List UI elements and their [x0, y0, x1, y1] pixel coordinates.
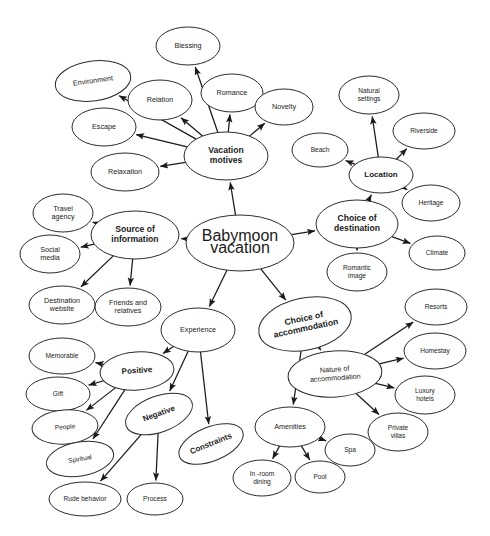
node-label-novelty: Novelty: [272, 102, 296, 111]
edge-positive-to-gift: [89, 381, 104, 385]
node-label-friends: Friends andrelatives: [109, 298, 147, 316]
edge-nature-to-homestay: [379, 358, 404, 364]
node-label-location: Location: [364, 170, 397, 179]
node-label-relation: Relation: [147, 95, 173, 104]
node-label-destination: Choice ofdestination: [334, 213, 380, 233]
node-label-heritage: Heritage: [419, 199, 444, 207]
node-accommodation[interactable]: Choice ofaccommodation: [254, 289, 357, 359]
node-socialmedia[interactable]: Socialmedia: [20, 235, 80, 273]
node-rudebehavior[interactable]: Rude behavior: [49, 482, 121, 516]
edge-location-to-natsettings: [372, 116, 378, 157]
node-label-root: Babymoonvacation: [202, 227, 279, 256]
node-constraints[interactable]: Constraints: [173, 416, 249, 473]
edge-negative-to-process: [156, 433, 158, 480]
edge-amenities-to-spa: [319, 438, 326, 441]
node-label-riverside: Riverside: [410, 127, 438, 134]
node-novelty[interactable]: Novelty: [255, 89, 313, 125]
node-motives[interactable]: Vacationmotives: [184, 132, 268, 180]
edge-source-to-socialmedia: [81, 244, 95, 247]
node-location[interactable]: Location: [349, 157, 413, 193]
node-label-travelagency: Travelagency: [51, 204, 75, 222]
node-label-rudebehavior: Rude behavior: [64, 495, 108, 502]
node-label-source: Source ofinformation: [111, 224, 158, 244]
node-relaxation[interactable]: Relaxation: [91, 153, 159, 191]
edge-location-to-heritage: [404, 188, 407, 190]
edge-source-to-friends: [130, 259, 133, 286]
node-pool[interactable]: Pool: [295, 461, 345, 493]
node-experience[interactable]: Experience: [161, 308, 235, 352]
node-luxuryhotels[interactable]: Luxuryhotels: [395, 376, 455, 414]
node-label-romance: Romance: [217, 88, 248, 97]
node-natsettings[interactable]: Naturalsettings: [339, 76, 399, 114]
node-label-process: Process: [143, 495, 168, 502]
node-inroomdining[interactable]: In -roomdining: [233, 460, 291, 496]
node-label-gift: Gift: [53, 390, 63, 397]
edge-nature-to-luxuryhotels: [376, 383, 395, 387]
node-label-socialmedia: Socialmedia: [40, 245, 60, 263]
node-positive[interactable]: Positive: [99, 349, 175, 392]
edge-amenities-to-pool: [301, 446, 309, 460]
edge-motives-to-relaxation: [160, 162, 185, 166]
edge-root-to-motives: [230, 182, 235, 215]
node-riverside[interactable]: Riverside: [393, 113, 455, 149]
node-label-luxuryhotels: Luxuryhotels: [415, 386, 435, 402]
node-label-spa: Spa: [344, 446, 356, 454]
node-label-amenities: Amenities: [274, 422, 306, 431]
edge-destination-to-location: [368, 195, 371, 201]
edge-amenities-to-inroomdining: [273, 446, 280, 459]
edge-positive-to-people: [86, 388, 115, 411]
node-homestay[interactable]: Homestay: [404, 333, 466, 369]
edge-positive-to-spiritual: [93, 390, 125, 439]
edge-location-to-beach: [346, 161, 355, 165]
edge-root-to-destination: [292, 231, 315, 235]
node-layer: BabymoonvacationVacationmotivesBlessingE…: [20, 27, 467, 516]
node-label-pool: Pool: [313, 473, 327, 480]
edge-motives-to-relation: [181, 118, 203, 136]
edge-nature-to-privatevillas: [356, 393, 379, 414]
edge-source-to-destwebsite: [81, 256, 113, 287]
node-travelagency[interactable]: Travelagency: [33, 194, 93, 232]
node-label-resorts: Resorts: [425, 303, 448, 310]
node-blessing[interactable]: Blessing: [156, 27, 220, 65]
node-romance[interactable]: Romance: [201, 74, 263, 112]
node-label-beach: Beach: [311, 146, 330, 153]
node-friends[interactable]: Friends andrelatives: [95, 288, 161, 326]
node-environment[interactable]: Environment: [53, 56, 134, 106]
edge-root-to-accommodation: [261, 269, 286, 300]
node-label-experience: Experience: [180, 325, 216, 334]
node-gift[interactable]: Gift: [26, 377, 90, 411]
node-process[interactable]: Process: [127, 483, 183, 515]
edge-motives-to-escape: [136, 135, 187, 147]
node-people[interactable]: People: [31, 408, 99, 447]
node-label-homestay: Homestay: [420, 347, 450, 355]
node-privatevillas[interactable]: Privatevillas: [368, 413, 428, 451]
node-memorable[interactable]: Memorable: [29, 338, 95, 374]
node-beach[interactable]: Beach: [292, 133, 348, 167]
node-label-climate: Climate: [426, 249, 449, 256]
edge-motives-to-novelty: [250, 123, 265, 136]
node-relation[interactable]: Relation: [128, 80, 192, 120]
node-negative[interactable]: Negative: [120, 385, 198, 443]
node-resorts[interactable]: Resorts: [405, 289, 467, 325]
edge-experience-to-positive: [163, 346, 173, 353]
node-escape[interactable]: Escape: [72, 108, 136, 146]
edge-location-to-riverside: [396, 149, 406, 160]
node-label-relaxation: Relaxation: [108, 167, 142, 176]
node-destination[interactable]: Choice ofdestination: [316, 200, 398, 248]
node-heritage[interactable]: Heritage: [402, 185, 460, 221]
node-label-escape: Escape: [92, 122, 116, 131]
node-label-natsettings: Naturalsettings: [358, 86, 381, 103]
node-label-blessing: Blessing: [174, 41, 201, 50]
edge-positive-to-memorable: [96, 363, 104, 365]
node-destwebsite[interactable]: Destinationwebsite: [29, 286, 95, 324]
node-romanticimg[interactable]: Romanticimage: [327, 253, 387, 291]
node-nature[interactable]: Nature ofaccommodation: [287, 348, 384, 400]
node-climate[interactable]: Climate: [409, 236, 465, 270]
edge-root-to-experience: [209, 270, 227, 306]
node-root[interactable]: Babymoonvacation: [186, 215, 294, 271]
node-amenities[interactable]: Amenities: [255, 407, 325, 447]
edge-destination-to-climate: [392, 237, 411, 244]
node-spa[interactable]: Spa: [325, 434, 375, 466]
node-label-memorable: Memorable: [46, 352, 79, 359]
node-source[interactable]: Source ofinformation: [91, 211, 179, 259]
